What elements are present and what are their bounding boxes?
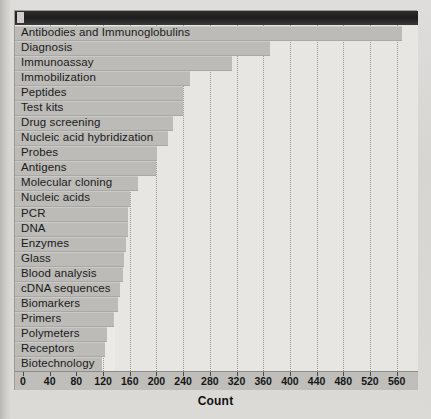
bar-row[interactable]: Glass — [15, 251, 418, 266]
bar-category-label: Drug screening — [21, 117, 100, 128]
bar-category-label: Peptides — [21, 87, 67, 98]
x-tick-label-480: 480 — [335, 375, 353, 387]
bar-row[interactable]: DNA — [15, 221, 418, 236]
bar-row[interactable]: Antigens — [15, 160, 418, 175]
header-band — [15, 11, 418, 25]
bar-row[interactable]: Nucleic acid hybridization — [15, 130, 418, 145]
bar-chart: Antibodies and ImmunoglobulinsDiagnosisI… — [14, 10, 417, 390]
bar-row[interactable]: Immobilization — [15, 70, 418, 85]
bar-row[interactable]: Primers — [15, 311, 418, 326]
x-tick-label-360: 360 — [254, 375, 272, 387]
x-tick-label-280: 280 — [201, 375, 219, 387]
x-tick-label-120: 120 — [94, 375, 112, 387]
x-axis-title: Count — [14, 394, 417, 408]
bar-row[interactable]: Nucleic acids — [15, 190, 418, 205]
bar-category-label: Immobilization — [21, 72, 96, 83]
bar-category-label: Enzymes — [21, 238, 69, 249]
bar-row[interactable]: Enzymes — [15, 236, 418, 251]
bar-row[interactable]: Test kits — [15, 100, 418, 115]
bar-row[interactable]: cDNA sequences — [15, 281, 418, 296]
x-tick-label-400: 400 — [281, 375, 299, 387]
bar-row[interactable]: Probes — [15, 145, 418, 160]
bar-row[interactable]: Immunoassay — [15, 55, 418, 70]
bar-category-label: Immunoassay — [21, 57, 94, 68]
bar-row[interactable]: Blood analysis — [15, 266, 418, 281]
page-left-edge — [0, 0, 10, 419]
x-tick-label-440: 440 — [308, 375, 326, 387]
bar-category-label: DNA — [21, 223, 46, 234]
bar-category-label: Primers — [21, 313, 61, 324]
x-tick-label-520: 520 — [361, 375, 379, 387]
bar-category-label: Probes — [21, 147, 58, 158]
bar-category-label: Polymeters — [21, 328, 80, 339]
x-tick-label-160: 160 — [121, 375, 139, 387]
bar-row[interactable]: PCR — [15, 206, 418, 221]
x-axis: 0408012016020024028032036040044048052056… — [15, 371, 418, 390]
bar-row[interactable]: Peptides — [15, 85, 418, 100]
bar-category-label: Receptors — [21, 343, 74, 354]
bar-category-label: Blood analysis — [21, 268, 97, 279]
bar-row[interactable]: Receptors — [15, 341, 418, 356]
bar-row[interactable]: Drug screening — [15, 115, 418, 130]
x-tick-label-560: 560 — [388, 375, 406, 387]
bar-category-label: PCR — [21, 208, 46, 219]
x-tick-label-240: 240 — [174, 375, 192, 387]
bar-row[interactable]: Biomarkers — [15, 296, 418, 311]
bar-row[interactable]: Antibodies and Immunoglobulins — [15, 25, 418, 40]
bar-category-label: Molecular cloning — [21, 177, 112, 188]
x-tick-label-320: 320 — [228, 375, 246, 387]
bar-category-label: Biotechnology — [21, 358, 95, 369]
bar-category-label: Glass — [21, 253, 51, 264]
bar-category-label: Nucleic acid hybridization — [21, 132, 153, 143]
bar-row[interactable]: Molecular cloning — [15, 175, 418, 190]
x-tick-label-80: 80 — [71, 375, 83, 387]
bar-row[interactable]: Polymeters — [15, 326, 418, 341]
bar-category-label: Antibodies and Immunoglobulins — [21, 27, 190, 38]
scanned-page: Antibodies and ImmunoglobulinsDiagnosisI… — [0, 0, 431, 419]
bar-category-label: cDNA sequences — [21, 283, 111, 294]
bar-category-label: Diagnosis — [21, 42, 72, 53]
bar-category-label: Biomarkers — [21, 298, 80, 309]
bar-category-label: Test kits — [21, 102, 63, 113]
x-tick-label-0: 0 — [20, 375, 26, 387]
header-band-marker — [17, 12, 24, 23]
bar-row[interactable]: Biotechnology — [15, 356, 418, 371]
bar-category-label: Nucleic acids — [21, 192, 90, 203]
bar-category-label: Antigens — [21, 162, 67, 173]
x-tick-label-40: 40 — [44, 375, 56, 387]
plot-area: Antibodies and ImmunoglobulinsDiagnosisI… — [15, 25, 418, 371]
x-tick-label-200: 200 — [148, 375, 166, 387]
bar-row[interactable]: Diagnosis — [15, 40, 418, 55]
